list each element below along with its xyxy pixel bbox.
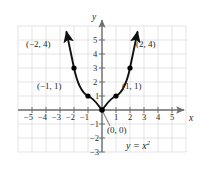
x-tick-label-neg4: −4 <box>38 113 47 122</box>
y-tick-label-2: 2 <box>93 78 97 87</box>
point-label-0-0: (0, 0) <box>107 126 127 135</box>
x-tick-label-4: 4 <box>156 113 160 122</box>
y-tick-label-neg2: −2 <box>90 134 99 143</box>
point-label-neg1-1: (−1, 1) <box>37 82 62 91</box>
x-tick-label-neg2: −2 <box>66 113 75 122</box>
x-tick-label-5: 5 <box>170 113 174 122</box>
data-point-0-0 <box>99 107 105 113</box>
x-tick-label-neg5: −5 <box>24 113 33 122</box>
y-tick-label-4: 4 <box>93 50 97 59</box>
x-tick-label-neg3: −3 <box>52 113 61 122</box>
y-tick-label-5: 5 <box>93 36 97 45</box>
y-tick-label-neg1: −1 <box>90 120 99 129</box>
data-point-neg1-1 <box>85 93 90 98</box>
x-tick-label-1: 1 <box>114 113 118 122</box>
equation-label: y = x2 <box>126 140 150 151</box>
data-point-neg2-4 <box>71 65 76 70</box>
graph-figure: −5 −4 −3 −2 −1 1 2 3 4 5 5 4 3 2 1 −1 −2… <box>0 0 203 171</box>
y-tick-label-1: 1 <box>95 92 99 101</box>
data-point-1-1 <box>113 93 118 98</box>
x-tick-label-neg1: −1 <box>80 113 89 122</box>
y-tick-label-3: 3 <box>93 64 97 73</box>
y-tick-label-neg3: −3 <box>90 148 99 157</box>
parabola-curve-right-branch <box>102 32 138 110</box>
coordinate-plane-svg <box>0 0 203 171</box>
equation-exponent: 2 <box>147 139 150 146</box>
point-label-1-1: (1, 1) <box>122 82 142 91</box>
data-point-2-4 <box>127 65 132 70</box>
x-tick-label-3: 3 <box>142 113 146 122</box>
point-label-2-4: (2, 4) <box>136 40 156 49</box>
x-axis-label: x <box>189 114 193 124</box>
equation-text: y = x <box>126 140 147 151</box>
point-label-neg2-4: (−2, 4) <box>26 40 51 49</box>
y-axis-label: y <box>92 13 96 23</box>
x-tick-label-2: 2 <box>128 113 132 122</box>
